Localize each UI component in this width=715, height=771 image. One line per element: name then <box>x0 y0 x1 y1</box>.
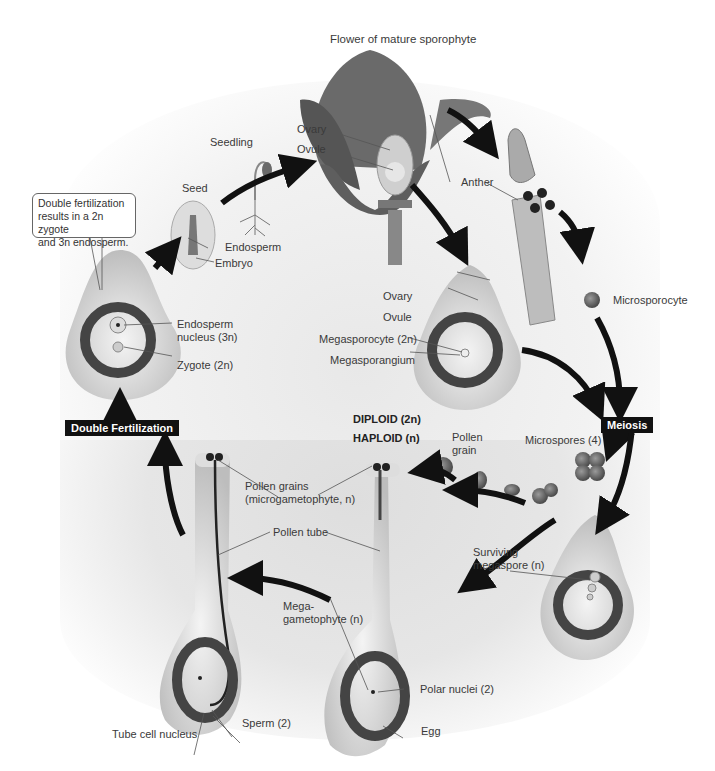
meiosis-stage: Meiosis <box>601 417 653 433</box>
endosperm-nucleus-label-1: Endosperm <box>177 318 233 331</box>
diploid-label: DIPLOID (2n) <box>353 413 421 425</box>
fertilized-ovule <box>66 250 181 400</box>
callout-line-2: results in a 2n zygote <box>38 210 130 236</box>
microspores-label: Microspores (4) <box>525 434 601 447</box>
flower-ovary-label: Ovary <box>297 123 326 136</box>
ovary-label: Ovary <box>383 290 412 303</box>
pollen-grain-label-1: Pollen <box>452 431 483 444</box>
anther-label: Anther <box>461 176 493 189</box>
embryo-label: Embryo <box>215 257 253 270</box>
double-fertilization-callout: Double fertilization results in a 2n zyg… <box>32 193 136 238</box>
ovule-surviving-megaspore <box>541 515 634 660</box>
pollen-illustrations <box>433 452 605 504</box>
haploid-label: HAPLOID (n) <box>353 432 420 444</box>
megasporangium-label: Megasporangium <box>330 354 415 367</box>
flower-ovule-label: Ovule <box>297 143 326 156</box>
seed-label: Seed <box>182 182 208 195</box>
life-cycle-illustration <box>0 0 715 771</box>
surviving-megaspore-label-2: megaspore (n) <box>473 559 545 572</box>
anther-illustration <box>508 129 600 325</box>
endosperm-label: Endosperm <box>225 241 281 254</box>
callout-line-3: and 3n endosperm. <box>38 236 130 249</box>
flower-title: Flower of mature sporophyte <box>330 33 476 46</box>
seedling-label: Seedling <box>210 136 253 149</box>
ovule-megasporocyte <box>414 265 521 410</box>
zygote-label: Zygote (2n) <box>177 359 233 372</box>
microsporocyte-label: Microsporocyte <box>613 294 688 307</box>
megagametophyte-label-2: gametophyte (n) <box>283 613 363 626</box>
pollen-tube-label: Pollen tube <box>273 526 328 539</box>
tube-cell-nucleus-label: Tube cell nucleus <box>112 728 197 741</box>
callout-line-1: Double fertilization <box>38 197 130 210</box>
flower-illustration <box>300 50 491 265</box>
endosperm-nucleus-label-2: nucleus (3n) <box>177 331 238 344</box>
sperm-label: Sperm (2) <box>242 717 291 730</box>
surviving-megaspore-label-1: Surviving <box>473 546 518 559</box>
double-fertilization-stage: Double Fertilization <box>65 420 179 436</box>
egg-label: Egg <box>421 725 441 738</box>
ovule-label: Ovule <box>383 311 412 324</box>
pollen-grain-label-2: grain <box>452 444 476 457</box>
megagametophyte-ovule <box>324 463 405 756</box>
polar-nuclei-label: Polar nuclei (2) <box>420 683 494 696</box>
megagametophyte-label-1: Mega- <box>283 600 314 613</box>
pollen-grains-label-2: (microgametophyte, n) <box>245 493 355 506</box>
pollen-grains-label-1: Pollen grains <box>245 480 309 493</box>
megasporocyte-label: Megasporocyte (2n) <box>319 333 417 346</box>
